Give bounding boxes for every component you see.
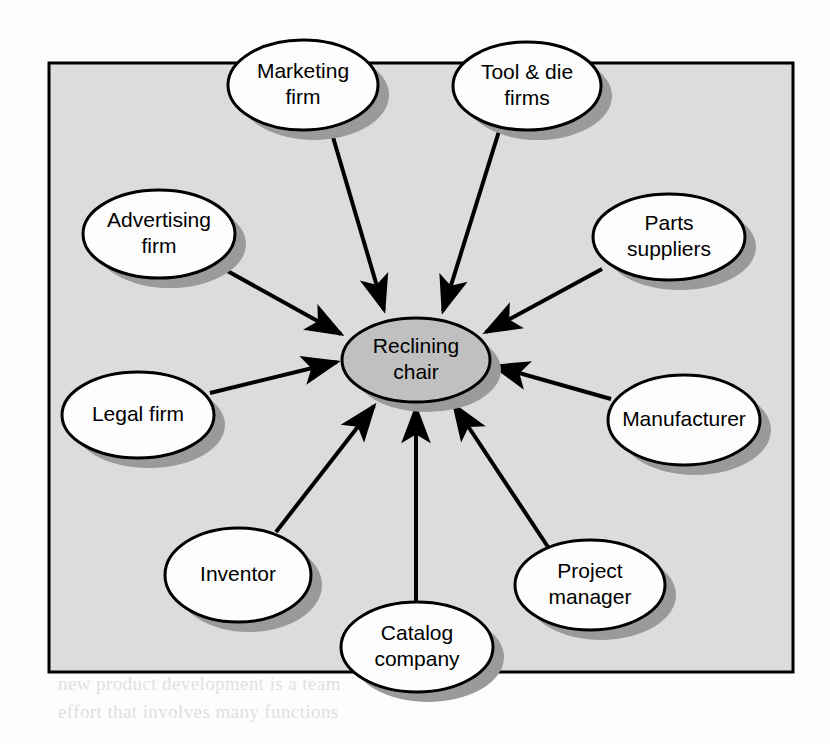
node-label: Inventor [200,562,276,585]
node-label: company [374,647,460,670]
node-label: Catalog [381,621,453,644]
node-label: Reclining [373,334,459,357]
node-label: suppliers [627,237,711,260]
node-label: Parts [644,211,693,234]
node-label: manager [549,585,632,608]
stakeholder-network-diagram: but is not the same as it. Product desig… [0,0,830,744]
showthrough-line: effort that involves many functions [58,701,339,722]
node-label: firm [142,234,177,257]
node-label: Project [557,559,623,582]
node-label: Advertising [107,208,211,231]
figure-canvas: but is not the same as it. Product desig… [0,0,830,744]
showthrough-line: new product development is a team [58,673,341,694]
node-label: Marketing [257,59,349,82]
node-label: Manufacturer [622,407,746,430]
node-label: Legal firm [92,402,184,425]
node-label: firm [286,85,321,108]
node-label: firms [504,86,550,109]
node-label: chair [393,360,439,383]
node-label: Tool & die [481,60,573,83]
